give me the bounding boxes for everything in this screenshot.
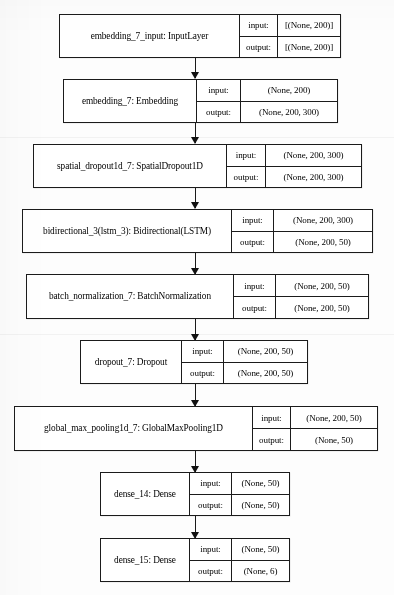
- input-shape: (None, 200, 50): [291, 407, 377, 428]
- input-shape: (None, 200, 300): [274, 210, 372, 231]
- input-shape: (None, 200, 300): [266, 145, 361, 166]
- model-diagram-canvas: embedding_7_input: InputLayer input: [(N…: [0, 0, 394, 595]
- layer-io-table: input: (None, 200, 50) output: (None, 20…: [234, 275, 368, 318]
- input-label: input:: [182, 341, 224, 362]
- layer-name: embedding_7: Embedding: [64, 80, 197, 122]
- layer-input-row: input: (None, 200, 300): [227, 145, 361, 167]
- layer-io-table: input: [(None, 200)] output: [(None, 200…: [240, 15, 340, 57]
- connector-arrow-7: [189, 450, 203, 472]
- layer-node-batch-normalization-7[interactable]: batch_normalization_7: BatchNormalizatio…: [26, 274, 369, 319]
- output-label: output:: [240, 37, 278, 58]
- connector-stem: [195, 122, 196, 143]
- layer-output-row: output: (None, 200, 50): [232, 232, 372, 253]
- layer-output-row: output: (None, 6): [190, 561, 289, 582]
- input-shape: (None, 50): [232, 539, 289, 560]
- input-label: input:: [190, 539, 232, 560]
- layer-name: embedding_7_input: InputLayer: [60, 15, 240, 57]
- layer-output-row: output: (None, 200, 300): [227, 167, 361, 188]
- output-label: output:: [232, 232, 274, 253]
- input-shape: (None, 200): [241, 80, 337, 101]
- connector-stem: [195, 57, 196, 78]
- output-shape: (None, 50): [232, 495, 289, 516]
- layer-output-row: output: (None, 50): [190, 495, 289, 516]
- layer-node-dense-14[interactable]: dense_14: Dense input: (None, 50) output…: [100, 472, 290, 516]
- input-label: input:: [234, 275, 276, 296]
- connector-arrow-8: [189, 516, 203, 538]
- layer-name: dense_14: Dense: [101, 473, 190, 515]
- layer-io-table: input: (None, 50) output: (None, 50): [190, 473, 289, 515]
- layer-output-row: output: (None, 50): [253, 429, 377, 450]
- input-shape: (None, 200, 50): [224, 341, 307, 362]
- connector-stem: [195, 450, 196, 472]
- input-shape: [(None, 200)]: [278, 15, 340, 36]
- output-label: output:: [197, 102, 241, 123]
- layer-node-embedding-7[interactable]: embedding_7: Embedding input: (None, 200…: [63, 79, 338, 123]
- layer-name: bidirectional_3(lstm_3): Bidirectional(L…: [23, 210, 232, 252]
- connector-arrowhead: [191, 202, 199, 209]
- connector-arrow-5: [189, 318, 203, 340]
- connector-arrow-4: [189, 252, 203, 274]
- layer-node-global-max-pooling1d-7[interactable]: global_max_pooling1d_7: GlobalMaxPooling…: [14, 406, 378, 451]
- layer-input-row: input: (None, 200): [197, 80, 337, 102]
- layer-node-dense-15[interactable]: dense_15: Dense input: (None, 50) output…: [100, 538, 290, 582]
- output-shape: (None, 200, 300): [241, 102, 337, 123]
- connector-stem: [195, 187, 196, 208]
- layer-name: batch_normalization_7: BatchNormalizatio…: [27, 275, 234, 318]
- layer-input-row: input: (None, 50): [190, 473, 289, 495]
- layer-name: dropout_7: Dropout: [81, 341, 182, 383]
- scan-artifact: [0, 334, 394, 335]
- output-label: output:: [227, 167, 266, 188]
- connector-stem: [195, 252, 196, 274]
- input-label: input:: [190, 473, 232, 494]
- layer-io-table: input: (None, 200, 50) output: (None, 50…: [253, 407, 377, 450]
- layer-input-row: input: [(None, 200)]: [240, 15, 340, 37]
- connector-arrow-3: [189, 187, 203, 208]
- layer-input-row: input: (None, 200, 300): [232, 210, 372, 232]
- layer-io-table: input: (None, 200, 300) output: (None, 2…: [227, 145, 361, 187]
- input-label: input:: [197, 80, 241, 101]
- layer-output-row: output: [(None, 200)]: [240, 37, 340, 58]
- input-label: input:: [240, 15, 278, 36]
- scan-artifact: [0, 137, 394, 138]
- output-label: output:: [190, 561, 232, 582]
- layer-io-table: input: (None, 50) output: (None, 6): [190, 539, 289, 581]
- layer-node-bidirectional-3[interactable]: bidirectional_3(lstm_3): Bidirectional(L…: [22, 209, 373, 253]
- connector-arrowhead: [191, 137, 199, 144]
- layer-node-embedding-7-input[interactable]: embedding_7_input: InputLayer input: [(N…: [59, 14, 341, 58]
- connector-arrow-6: [189, 383, 203, 406]
- output-label: output:: [182, 363, 224, 384]
- layer-input-row: input: (None, 200, 50): [234, 275, 368, 297]
- connector-arrow-2: [189, 122, 203, 143]
- output-label: output:: [190, 495, 232, 516]
- connector-arrowhead: [191, 72, 199, 79]
- layer-io-table: input: (None, 200, 300) output: (None, 2…: [232, 210, 372, 252]
- layer-input-row: input: (None, 200, 50): [182, 341, 307, 363]
- layer-node-dropout-7[interactable]: dropout_7: Dropout input: (None, 200, 50…: [80, 340, 308, 384]
- output-shape: (None, 200, 50): [274, 232, 372, 253]
- input-shape: (None, 200, 50): [276, 275, 368, 296]
- output-shape: (None, 200, 300): [266, 167, 361, 188]
- layer-output-row: output: (None, 200, 50): [234, 297, 368, 318]
- layer-input-row: input: (None, 200, 50): [253, 407, 377, 429]
- layer-output-row: output: (None, 200, 50): [182, 363, 307, 384]
- layer-io-table: input: (None, 200, 50) output: (None, 20…: [182, 341, 307, 383]
- output-shape: (None, 200, 50): [276, 297, 368, 318]
- connector-stem: [195, 383, 196, 406]
- output-shape: (None, 200, 50): [224, 363, 307, 384]
- layer-input-row: input: (None, 50): [190, 539, 289, 561]
- output-label: output:: [253, 429, 291, 450]
- layer-name: spatial_dropout1d_7: SpatialDropout1D: [34, 145, 227, 187]
- output-label: output:: [234, 297, 276, 318]
- layer-output-row: output: (None, 200, 300): [197, 102, 337, 123]
- connector-stem: [195, 318, 196, 340]
- input-label: input:: [232, 210, 274, 231]
- connector-stem: [195, 516, 196, 538]
- output-shape: (None, 50): [291, 429, 377, 450]
- connector-arrow-1: [189, 57, 203, 78]
- layer-name: dense_15: Dense: [101, 539, 190, 581]
- layer-name: global_max_pooling1d_7: GlobalMaxPooling…: [15, 407, 253, 450]
- layer-io-table: input: (None, 200) output: (None, 200, 3…: [197, 80, 337, 122]
- layer-node-spatial-dropout1d-7[interactable]: spatial_dropout1d_7: SpatialDropout1D in…: [33, 144, 362, 188]
- output-shape: [(None, 200)]: [278, 37, 340, 58]
- input-label: input:: [227, 145, 266, 166]
